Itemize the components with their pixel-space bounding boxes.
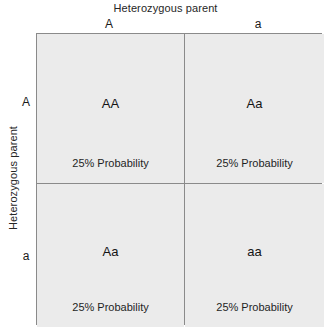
cell-genotype: Aa [185,96,324,111]
cell-probability: 25% Probability [37,157,184,169]
cell-genotype: aa [185,244,324,259]
column-header-allele-a: a [238,17,278,31]
cell-probability: 25% Probability [37,301,184,313]
punnett-cell: Aa 25% Probability [185,34,324,183]
punnett-cell: Aa 25% Probability [37,184,184,327]
row-header-allele-A: A [16,95,36,109]
cell-probability: 25% Probability [185,157,324,169]
punnett-cell: aa 25% Probability [185,184,324,327]
column-header-allele-A: A [89,17,129,31]
cell-probability: 25% Probability [185,301,324,313]
cell-genotype: AA [37,96,184,111]
top-axis-title: Heterozygous parent [0,2,331,14]
punnett-cell: AA 25% Probability [37,34,184,183]
cell-genotype: Aa [37,244,184,259]
row-header-allele-a: a [16,249,36,263]
punnett-square-diagram: Heterozygous parent Heterozygous parent … [0,0,331,333]
left-axis-title: Heterozygous parent [7,103,19,253]
punnett-grid: AA 25% Probability Aa 25% Probability Aa… [36,33,322,325]
